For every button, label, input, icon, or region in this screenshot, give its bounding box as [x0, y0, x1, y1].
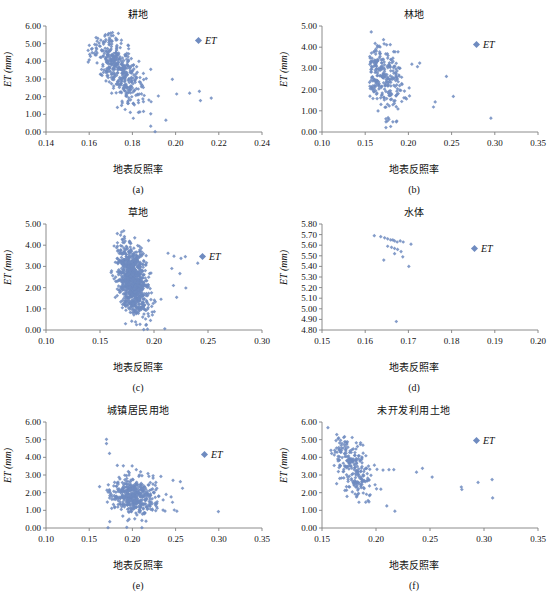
- svg-text:0.15: 0.15: [357, 138, 373, 148]
- svg-text:0.00: 0.00: [25, 127, 41, 137]
- svg-text:0.10: 0.10: [314, 138, 330, 148]
- svg-text:1.00: 1.00: [301, 505, 317, 515]
- svg-text:0.15: 0.15: [314, 534, 330, 544]
- svg-text:0.15: 0.15: [81, 534, 97, 544]
- svg-text:0.10: 0.10: [38, 336, 54, 346]
- legend: ET: [474, 434, 495, 446]
- svg-text:0.25: 0.25: [444, 138, 460, 148]
- legend: ET: [474, 38, 495, 50]
- x-axis-label: 地表反照率: [0, 161, 276, 176]
- legend: ET: [472, 242, 493, 254]
- svg-text:0.16: 0.16: [357, 336, 373, 346]
- legend-diamond-icon: [199, 253, 206, 260]
- svg-text:0.30: 0.30: [254, 336, 270, 346]
- panel-caption: (f): [276, 580, 552, 591]
- legend-diamond-icon: [473, 41, 480, 48]
- svg-text:3.00: 3.00: [25, 261, 41, 271]
- svg-text:0.35: 0.35: [254, 534, 270, 544]
- y-axis-label: ET (mm): [278, 250, 292, 285]
- x-axis-label: 地表反照率: [276, 359, 552, 374]
- svg-text:3.00: 3.00: [25, 74, 41, 84]
- panel-a: 耕地 0.001.002.003.004.005.006.000.140.160…: [0, 0, 276, 198]
- svg-text:1.00: 1.00: [25, 505, 41, 515]
- svg-text:1.00: 1.00: [25, 304, 41, 314]
- panel-caption: (d): [276, 382, 552, 393]
- legend-label: ET: [211, 449, 223, 460]
- svg-text:2.00: 2.00: [25, 283, 41, 293]
- svg-text:0.14: 0.14: [38, 138, 54, 148]
- y-axis-label: ET (mm): [278, 52, 292, 87]
- panel-caption: (b): [276, 184, 552, 195]
- y-axis-label: ET (mm): [278, 448, 292, 483]
- svg-text:0.00: 0.00: [25, 325, 41, 335]
- svg-text:4.00: 4.00: [25, 240, 41, 250]
- svg-text:2.00: 2.00: [25, 488, 41, 498]
- legend-label: ET: [209, 251, 221, 262]
- svg-text:5.70: 5.70: [301, 230, 317, 240]
- svg-text:0.10: 0.10: [38, 534, 54, 544]
- legend-diamond-icon: [473, 437, 480, 444]
- svg-text:3.00: 3.00: [301, 63, 317, 73]
- y-axis-label: ET (mm): [2, 250, 16, 285]
- svg-text:0.35: 0.35: [530, 534, 546, 544]
- panel-d: 水体 4.804.905.005.105.205.305.405.505.605…: [276, 198, 552, 396]
- svg-text:5.40: 5.40: [301, 261, 317, 271]
- svg-text:0.16: 0.16: [81, 138, 97, 148]
- panel-caption: (a): [0, 184, 276, 195]
- y-axis-label: ET (mm): [2, 52, 16, 87]
- svg-text:0.25: 0.25: [422, 534, 438, 544]
- svg-text:0.00: 0.00: [25, 523, 41, 533]
- svg-text:6.00: 6.00: [25, 417, 41, 427]
- svg-text:5.00: 5.00: [301, 435, 317, 445]
- svg-text:0.20: 0.20: [168, 138, 184, 148]
- svg-text:0.20: 0.20: [401, 138, 417, 148]
- svg-text:2.00: 2.00: [301, 85, 317, 95]
- panel-c: 草地 0.001.002.003.004.005.000.100.150.200…: [0, 198, 276, 396]
- svg-text:0.25: 0.25: [168, 534, 184, 544]
- legend: ET: [200, 250, 221, 262]
- svg-text:1.00: 1.00: [301, 106, 317, 116]
- legend-label: ET: [481, 243, 493, 254]
- figure-six-scatter-panels: 耕地 0.001.002.003.004.005.006.000.140.160…: [0, 0, 552, 595]
- x-axis-label: 地表反照率: [276, 557, 552, 572]
- svg-text:0.30: 0.30: [476, 534, 492, 544]
- panel-b: 林地 0.001.002.003.004.005.000.100.150.200…: [276, 0, 552, 198]
- svg-text:0.20: 0.20: [368, 534, 384, 544]
- svg-text:0.30: 0.30: [487, 138, 503, 148]
- svg-text:0.20: 0.20: [146, 336, 162, 346]
- svg-text:5.10: 5.10: [301, 293, 317, 303]
- legend-diamond-icon: [471, 245, 478, 252]
- svg-text:5.30: 5.30: [301, 272, 317, 282]
- svg-text:0.25: 0.25: [200, 336, 216, 346]
- svg-text:0.15: 0.15: [92, 336, 108, 346]
- svg-text:0.30: 0.30: [211, 534, 227, 544]
- panel-caption: (e): [0, 580, 276, 591]
- svg-text:5.00: 5.00: [301, 304, 317, 314]
- svg-text:0.35: 0.35: [530, 138, 546, 148]
- legend-diamond-icon: [201, 451, 208, 458]
- legend: ET: [196, 34, 217, 46]
- svg-text:0.00: 0.00: [301, 523, 317, 533]
- svg-text:5.00: 5.00: [25, 219, 41, 229]
- svg-text:0.19: 0.19: [487, 336, 503, 346]
- legend-label: ET: [483, 39, 495, 50]
- svg-text:1.00: 1.00: [25, 109, 41, 119]
- x-axis-label: 地表反照率: [0, 557, 276, 572]
- legend-diamond-icon: [195, 37, 202, 44]
- svg-text:4.90: 4.90: [301, 314, 317, 324]
- svg-text:0.17: 0.17: [401, 336, 417, 346]
- panel-caption: (c): [0, 382, 276, 393]
- svg-text:2.00: 2.00: [25, 92, 41, 102]
- svg-text:5.20: 5.20: [301, 283, 317, 293]
- svg-text:4.80: 4.80: [301, 325, 317, 335]
- y-axis-label: ET (mm): [2, 448, 16, 483]
- svg-text:4.00: 4.00: [25, 452, 41, 462]
- svg-text:5.00: 5.00: [25, 39, 41, 49]
- x-axis-label: 地表反照率: [276, 161, 552, 176]
- legend: ET: [202, 448, 223, 460]
- svg-text:3.00: 3.00: [301, 470, 317, 480]
- svg-text:0.18: 0.18: [125, 138, 141, 148]
- svg-text:6.00: 6.00: [25, 21, 41, 31]
- svg-text:4.00: 4.00: [25, 56, 41, 66]
- svg-text:4.00: 4.00: [301, 42, 317, 52]
